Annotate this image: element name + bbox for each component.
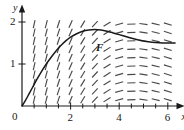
origin-tick-label: 0 [12, 111, 18, 122]
axes-group [18, 5, 184, 110]
y-axis-name: y [13, 3, 17, 13]
curve-label-F: F [96, 42, 103, 53]
x-axis-name: x [182, 112, 184, 122]
x-tick-label-6: 6 [165, 112, 171, 123]
y-tick-label-1: 1 [10, 58, 16, 69]
slope-field-figure: 0 1 2 2 4 6 x y F [0, 0, 184, 130]
slope-field-group [33, 20, 171, 104]
plot-canvas [0, 0, 184, 130]
x-tick-label-4: 4 [116, 112, 122, 123]
y-tick-label-2: 2 [10, 16, 16, 27]
x-tick-label-2: 2 [68, 112, 74, 123]
